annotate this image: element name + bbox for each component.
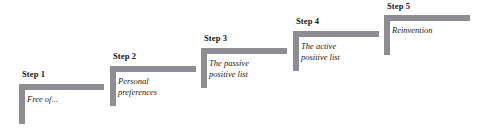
- step-bar-horizontal-1: [19, 84, 104, 90]
- step-bar-vertical-1: [19, 84, 25, 124]
- step-bar-horizontal-2: [110, 66, 196, 72]
- step-bar-horizontal-4: [293, 31, 379, 37]
- step-label-3: Step 3: [204, 33, 227, 43]
- step-bar-horizontal-3: [201, 48, 287, 54]
- step-bar-vertical-2: [110, 66, 116, 106]
- step-caption-5: Reinvention: [392, 25, 433, 36]
- step-caption-3: The passive positive list: [209, 58, 249, 79]
- step-label-5: Step 5: [387, 1, 410, 11]
- step-caption-1: Free of...: [27, 94, 58, 105]
- step-label-2: Step 2: [113, 51, 136, 61]
- step-label-1: Step 1: [22, 69, 45, 79]
- step-caption-4: The active positive list: [301, 41, 340, 62]
- step-bar-vertical-4: [293, 31, 299, 71]
- step-bar-vertical-5: [384, 15, 390, 55]
- step-bar-horizontal-5: [384, 15, 470, 21]
- step-caption-2: Personal preferences: [118, 76, 157, 97]
- step-bar-vertical-3: [201, 48, 207, 88]
- step-label-4: Step 4: [296, 16, 319, 26]
- diagram-canvas: Step 1 Free of... Step 2 Personal prefer…: [0, 0, 487, 134]
